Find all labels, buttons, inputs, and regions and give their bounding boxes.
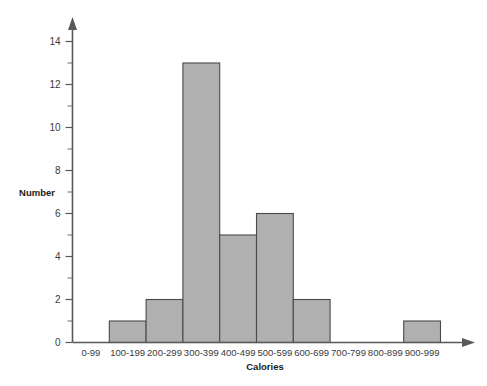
histogram-bar xyxy=(404,321,441,343)
y-axis-tick-label: 0 xyxy=(55,337,61,348)
category-label-group: 0-99100-199200-299300-399400-499500-5996… xyxy=(81,347,439,358)
x-axis-tick-label: 400-499 xyxy=(221,347,256,358)
y-axis-tick-label: 2 xyxy=(55,294,61,305)
x-axis-arrow-icon xyxy=(462,338,475,347)
x-axis-tick-label: 200-299 xyxy=(147,347,182,358)
x-axis-tick-label: 500-599 xyxy=(257,347,292,358)
x-axis-tick-label: 0-99 xyxy=(81,347,100,358)
x-axis-tick-label: 700-799 xyxy=(331,347,366,358)
histogram-canvas: 02468101214 0-99100-199200-299300-399400… xyxy=(0,0,487,386)
y-axis-tick-label: 4 xyxy=(55,251,61,262)
histogram-bar xyxy=(220,235,257,343)
histogram-bar xyxy=(183,63,220,343)
x-axis-title: Calories xyxy=(246,361,284,372)
x-axis-tick-label: 900-999 xyxy=(405,347,440,358)
x-axis-tick-label: 600-699 xyxy=(294,347,329,358)
histogram-bar xyxy=(109,321,146,343)
x-axis-tick-label: 100-199 xyxy=(110,347,145,358)
y-axis-tick-label: 10 xyxy=(49,122,61,133)
bars-group xyxy=(109,63,440,343)
y-axis-tick-label: 14 xyxy=(49,36,61,47)
histogram-bar xyxy=(257,214,294,343)
histogram-bar xyxy=(146,300,183,343)
histogram-figure: 02468101214 0-99100-199200-299300-399400… xyxy=(0,0,487,386)
y-axis-arrow-icon xyxy=(68,17,77,30)
y-axis-tick-label: 6 xyxy=(55,208,61,219)
x-axis-tick-label: 300-399 xyxy=(184,347,219,358)
y-axis-tick-label: 8 xyxy=(55,165,61,176)
y-axis-tick-label: 12 xyxy=(49,79,61,90)
y-axis-title: Number xyxy=(19,187,55,198)
x-axis-tick-label: 800-899 xyxy=(368,347,403,358)
histogram-bar xyxy=(293,300,330,343)
